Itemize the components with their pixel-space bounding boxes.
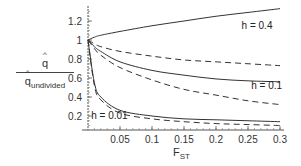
y-tick-label: 0.4 xyxy=(68,92,82,103)
x-tick-label: 0.1 xyxy=(145,134,159,145)
y-denominator-subscript: undivided xyxy=(31,81,65,90)
curve-annotation: h = 0.4 xyxy=(242,20,273,31)
x-tick-label: 0.2 xyxy=(209,134,223,145)
x-tick-label: 0.25 xyxy=(238,134,258,145)
curve-annotation: h = 0.01 xyxy=(91,110,128,121)
curve-annotation: h = 0.1 xyxy=(251,80,282,91)
y-denominator: q xyxy=(25,74,31,88)
y-numerator: q xyxy=(42,56,48,70)
x-tick-label: 0.05 xyxy=(110,134,130,145)
fraction-bar xyxy=(16,72,74,73)
series-line xyxy=(88,40,280,66)
x-label-subscript: ST xyxy=(180,152,190,161)
series-line xyxy=(88,40,280,82)
y-tick-label: 1.2 xyxy=(68,16,82,27)
y-tick-label: 0.2 xyxy=(68,111,82,122)
series-line xyxy=(88,40,280,105)
annotations: h = 0.4h = 0.1h = 0.01 xyxy=(91,20,282,121)
y-tick-label: 1 xyxy=(76,35,82,46)
x-tick-label: 0.15 xyxy=(174,134,194,145)
x-tick-label: 0.3 xyxy=(273,134,287,145)
y-axis-label: q qundivided xyxy=(16,56,74,88)
x-label-main: F xyxy=(173,146,180,158)
x-axis-label: FST xyxy=(173,146,190,161)
